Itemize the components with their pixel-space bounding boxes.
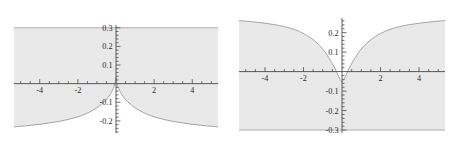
y-tick-label: 0.2 bbox=[328, 29, 338, 38]
x-tick-label: -4 bbox=[262, 74, 269, 83]
y-tick-label: 0.2 bbox=[102, 42, 112, 51]
x-tick-label: -2 bbox=[74, 86, 81, 95]
y-tick-label: -0.3 bbox=[326, 126, 339, 135]
x-tick-label: 4 bbox=[417, 74, 421, 83]
y-tick-label: -0.1 bbox=[326, 87, 339, 96]
plot-panel-right: -4-2240.20.1-0.1-0.2-0.3 bbox=[229, 0, 459, 154]
plot-panel-left: -4-2240.30.20.1-0.1-0.2 bbox=[0, 0, 229, 154]
x-tick-label: -2 bbox=[300, 74, 307, 83]
y-tick-label: -0.1 bbox=[100, 98, 113, 107]
plot-svg: -4-2240.30.20.1-0.1-0.2 bbox=[0, 0, 229, 154]
x-tick-label: 4 bbox=[190, 86, 194, 95]
plot-svg: -4-2240.20.1-0.1-0.2-0.3 bbox=[229, 0, 459, 154]
y-tick-label: 0.3 bbox=[102, 24, 112, 33]
y-tick-label: -0.2 bbox=[100, 117, 113, 126]
y-tick-label: 0.1 bbox=[328, 48, 338, 57]
y-tick-label: 0.1 bbox=[102, 61, 112, 70]
y-tick-label: -0.2 bbox=[326, 107, 339, 116]
figure-canvas: -4-2240.30.20.1-0.1-0.2 -4-2240.20.1-0.1… bbox=[0, 0, 459, 154]
x-tick-label: -4 bbox=[36, 86, 43, 95]
x-tick-label: 2 bbox=[378, 74, 382, 83]
x-tick-label: 2 bbox=[152, 86, 156, 95]
